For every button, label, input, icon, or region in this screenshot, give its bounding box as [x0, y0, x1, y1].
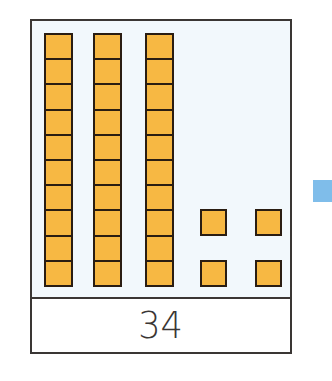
- rod-cube: [147, 237, 172, 262]
- rod-cube: [95, 262, 120, 285]
- unit-cube-1: [200, 209, 227, 236]
- number-label: 34: [139, 307, 184, 344]
- rod-cube: [46, 35, 71, 60]
- tens-rod-3: [145, 33, 174, 287]
- rod-cube: [46, 136, 71, 161]
- rod-cube: [46, 262, 71, 285]
- rod-cube: [147, 111, 172, 136]
- number-label-box: 34: [32, 299, 290, 352]
- rod-cube: [46, 161, 71, 186]
- tens-rod-1: [44, 33, 73, 287]
- rod-cube: [46, 211, 71, 236]
- rod-cube: [95, 237, 120, 262]
- blue-marker: [313, 180, 332, 202]
- place-value-frame: 34: [30, 19, 292, 354]
- rod-cube: [95, 60, 120, 85]
- unit-cube-2: [255, 209, 282, 236]
- rod-cube: [95, 111, 120, 136]
- rod-cube: [95, 186, 120, 211]
- rod-cube: [95, 161, 120, 186]
- rod-cube: [46, 85, 71, 110]
- rod-cube: [147, 60, 172, 85]
- rod-cube: [147, 211, 172, 236]
- unit-cube-4: [255, 260, 282, 287]
- rod-cube: [147, 161, 172, 186]
- rod-cube: [46, 60, 71, 85]
- rod-cube: [147, 262, 172, 285]
- rod-cube: [95, 211, 120, 236]
- rod-cube: [46, 237, 71, 262]
- rod-cube: [95, 35, 120, 60]
- tens-rod-2: [93, 33, 122, 287]
- rod-cube: [147, 136, 172, 161]
- rod-cube: [147, 85, 172, 110]
- blocks-area: [32, 21, 290, 299]
- rod-cube: [147, 35, 172, 60]
- rod-cube: [147, 186, 172, 211]
- rod-cube: [46, 186, 71, 211]
- unit-cube-3: [200, 260, 227, 287]
- rod-cube: [46, 111, 71, 136]
- rod-cube: [95, 136, 120, 161]
- base-ten-figure: 34: [0, 0, 332, 381]
- rod-cube: [95, 85, 120, 110]
